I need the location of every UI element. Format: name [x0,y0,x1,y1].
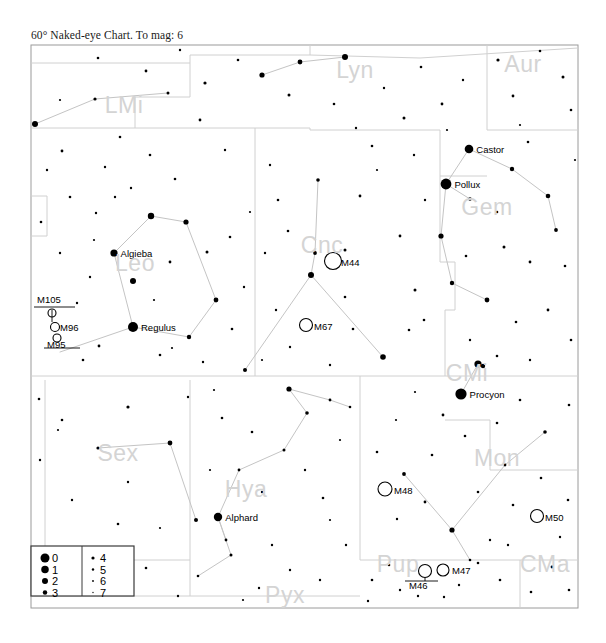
legend-dot [91,556,94,559]
dso-label: M105 [37,294,61,305]
dso-label: M48 [394,485,412,496]
named-star-dot[interactable] [465,145,474,154]
legend-mag-label: 1 [52,564,58,576]
constellation-label: CMa [520,551,570,577]
chart-frame [31,45,578,608]
named-star-dot[interactable] [455,388,466,399]
constellation-label: Pyx [265,582,305,608]
dso-label: M67 [314,321,332,332]
magnitude-legend[interactable]: 01234567 [31,546,134,599]
dso-label: M50 [545,512,563,523]
legend-dot [41,554,50,563]
legend-mag-label: 2 [52,575,58,587]
constellation-label: Leo [115,250,155,276]
constellation-label: Mon [474,445,520,471]
legend-mag-label: 4 [100,552,106,564]
star-name-label: Alphard [225,512,258,523]
legend-dot [92,592,93,593]
star-name-label: Procyon [470,389,505,400]
legend-dot [92,568,94,570]
star-name-label: Castor [476,144,504,155]
legend-dot [92,580,94,582]
constellation-label: Sex [97,440,138,466]
constellation-label: CMi [446,360,488,386]
constellation-label: Aur [504,51,541,77]
dso-label: M44 [341,257,359,268]
sky-chart-canvas[interactable]: CastorPolluxAlgiebaRegulusProcyonAlphard… [0,0,606,643]
named-star-dot[interactable] [441,179,452,190]
legend-dot [43,590,48,595]
legend-mag-label: 3 [52,587,58,599]
constellation-label: Pup [377,551,419,577]
constellation-label: Lyn [336,57,374,83]
named-star-dot[interactable] [214,513,222,521]
dso-label: M96 [60,322,78,333]
star-chart-page: 60° Naked-eye Chart. To mag: 6 [0,0,606,643]
dso-label: M46 [409,580,427,591]
legend-mag-label: 5 [100,564,106,576]
legend-dot [42,578,48,584]
constellation-label: Hya [225,476,267,502]
star-name-label: Regulus [141,322,176,333]
constellation-label: Gem [461,194,512,220]
dso-label: M47 [452,565,470,576]
legend-mag-label: 7 [100,587,106,599]
named-star-dot[interactable] [128,322,138,332]
constellation-label: LMi [105,92,144,118]
legend-dot [41,566,49,574]
legend-mag-label: 6 [100,575,106,587]
legend-mag-label: 0 [52,552,58,564]
star-name-label: Pollux [454,179,480,190]
constellation-label: Cnc [301,232,343,258]
